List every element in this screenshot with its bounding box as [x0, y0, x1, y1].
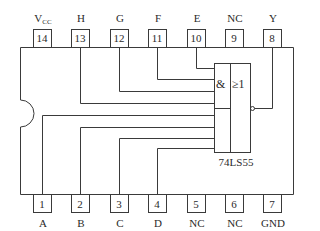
pin-label-e: E [182, 12, 212, 24]
or-symbol: ≥1 [232, 77, 245, 91]
wire-c [120, 139, 215, 195]
wire-b [81, 128, 215, 195]
pin-label-nc-6: NC [220, 217, 250, 229]
wire-d [158, 149, 215, 195]
pin-label-c: C [105, 217, 135, 229]
pin-number-13: 13 [71, 29, 89, 47]
pin-number-9: 9 [225, 29, 243, 47]
pin-label-h: H [66, 12, 96, 24]
pin-label-f: F [143, 12, 173, 24]
inverter-bubble [251, 107, 255, 111]
pin-label-b: B [66, 217, 96, 229]
pin-label-nc-9: NC [220, 12, 250, 24]
pin-number-7: 7 [263, 195, 281, 213]
pin-label-d: D [143, 217, 173, 229]
and-symbol: & [216, 77, 225, 91]
pin-number-14: 14 [33, 29, 51, 47]
pin-label-a: A [28, 217, 58, 229]
pin-number-2: 2 [71, 195, 89, 213]
wire-f [158, 48, 215, 80]
pin-number-12: 12 [110, 29, 128, 47]
pin-label-vcc-sub: CC [42, 18, 51, 26]
wire-h [81, 48, 215, 104]
pin-label-gnd: GND [255, 217, 291, 229]
pin-number-10: 10 [187, 29, 205, 47]
pin-number-4: 4 [148, 195, 166, 213]
pin-label-g: G [105, 12, 135, 24]
pin-label-nc-5: NC [182, 217, 212, 229]
pin-number-8: 8 [263, 29, 281, 47]
wire-e [197, 48, 215, 69]
wire-y [255, 48, 273, 109]
part-number: 74LS55 [214, 156, 258, 168]
pin-number-3: 3 [110, 195, 128, 213]
pin-number-1: 1 [33, 195, 51, 213]
wire-g [120, 48, 215, 92]
pin-label-y: Y [258, 12, 288, 24]
pin-number-5: 5 [187, 195, 205, 213]
pin-label-vcc: VCC [28, 12, 58, 28]
pin-number-11: 11 [148, 29, 166, 47]
pin-number-6: 6 [225, 195, 243, 213]
